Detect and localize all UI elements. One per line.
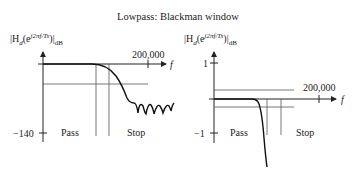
right-x-tick-label: 200,000 xyxy=(303,82,336,93)
right-y-tick-top-label: 1 xyxy=(203,58,208,69)
right-stop-label: Stop xyxy=(296,127,314,138)
left-stop-label: Stop xyxy=(127,127,145,138)
left-x-tick-label: 200,000 xyxy=(132,49,165,60)
left-pass-label: Pass xyxy=(61,127,79,138)
left-x-axis-label: f xyxy=(170,59,174,70)
right-plot: 1 f 200,000 −1 Pass Stop xyxy=(194,52,345,167)
right-x-axis-label: f xyxy=(341,94,345,105)
right-pass-label: Pass xyxy=(230,127,248,138)
left-plot: f 200,000 −140 Pass Stop xyxy=(13,49,174,142)
filter-response-diagram: f 200,000 −140 Pass Stop 1 f 200,000 xyxy=(0,0,356,176)
left-response-curve xyxy=(43,64,174,114)
right-y-tick-bottom-label: −1 xyxy=(194,128,205,139)
left-y-tick-label: −140 xyxy=(13,128,34,139)
